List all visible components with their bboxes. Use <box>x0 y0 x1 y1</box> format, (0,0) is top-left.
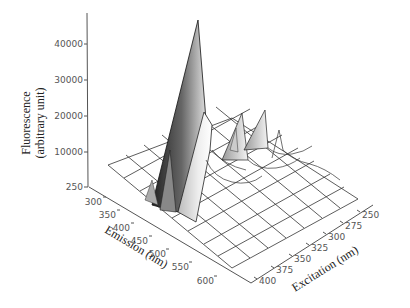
excitation-tick-label: 250 <box>362 210 379 220</box>
z-tick-label: 40000 <box>54 39 83 49</box>
z-axis: 40000 30000 20000 10000 250 Fluorescence… <box>19 13 88 192</box>
z-tick-label: 10000 <box>54 147 83 157</box>
excitation-tick-label: 375 <box>276 265 293 275</box>
emission-tick-label: 300 <box>85 197 102 207</box>
emission-tick-label: 600 <box>197 276 214 286</box>
z-tick-label: 30000 <box>54 75 83 85</box>
excitation-tick-label: 300 <box>328 232 345 242</box>
excitation-tick-label: 325 <box>311 243 328 253</box>
z-tick-label: 250 <box>66 182 83 192</box>
z-axis-title: Fluorescence <box>19 91 33 154</box>
z-tick-label: 20000 <box>54 111 83 121</box>
emission-axis-title: Emission (nm) <box>102 223 170 272</box>
fluorescence-3d-surface-plot: 40000 30000 20000 10000 250 Fluorescence… <box>0 0 410 308</box>
emission-tick-label: 550 <box>172 262 189 272</box>
z-axis-title: (arbitrary unit) <box>33 88 47 159</box>
excitation-tick-label: 275 <box>345 221 362 231</box>
excitation-tick-label: 400 <box>259 276 276 286</box>
emission-tick-label: 350 <box>99 210 116 220</box>
excitation-tick-label: 350 <box>294 254 311 264</box>
